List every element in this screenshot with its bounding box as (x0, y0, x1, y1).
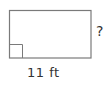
unknown-height-label: ? (96, 24, 103, 38)
rectangle-shape (10, 11, 92, 59)
width-label: 11 ft (27, 66, 60, 79)
right-angle-marker-icon (10, 45, 23, 59)
